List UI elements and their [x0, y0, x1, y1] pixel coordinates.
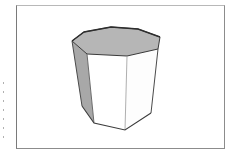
octagonal-prism-model: [0, 0, 235, 160]
front-right-face: [125, 49, 158, 130]
figure-canvas: [0, 0, 235, 160]
